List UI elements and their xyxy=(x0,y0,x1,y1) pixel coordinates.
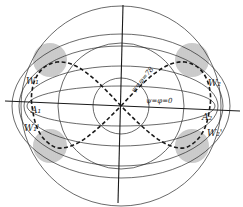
label-a2: A₂ xyxy=(201,112,212,122)
label-diagonal: ψ=φ=78 xyxy=(129,65,155,94)
hatch-upper-left xyxy=(33,43,67,77)
label-horizontal: ψ=φ=0 xyxy=(146,97,173,105)
hatch-lower-left xyxy=(33,129,67,163)
label-w2: W₂ xyxy=(208,78,221,88)
label-a1: A₁ xyxy=(30,105,41,115)
label-w1-prime: W₁' xyxy=(24,123,39,133)
hatch-upper-right xyxy=(175,43,209,77)
projection-diagram: W₁ A₁ W₁' W₂ A₂ W₂' ψ=φ=78 ψ=φ=0 xyxy=(0,0,243,207)
hatch-lower-right xyxy=(175,129,209,163)
label-w2-prime: W₂' xyxy=(207,128,222,138)
label-w1: W₁ xyxy=(26,76,39,86)
